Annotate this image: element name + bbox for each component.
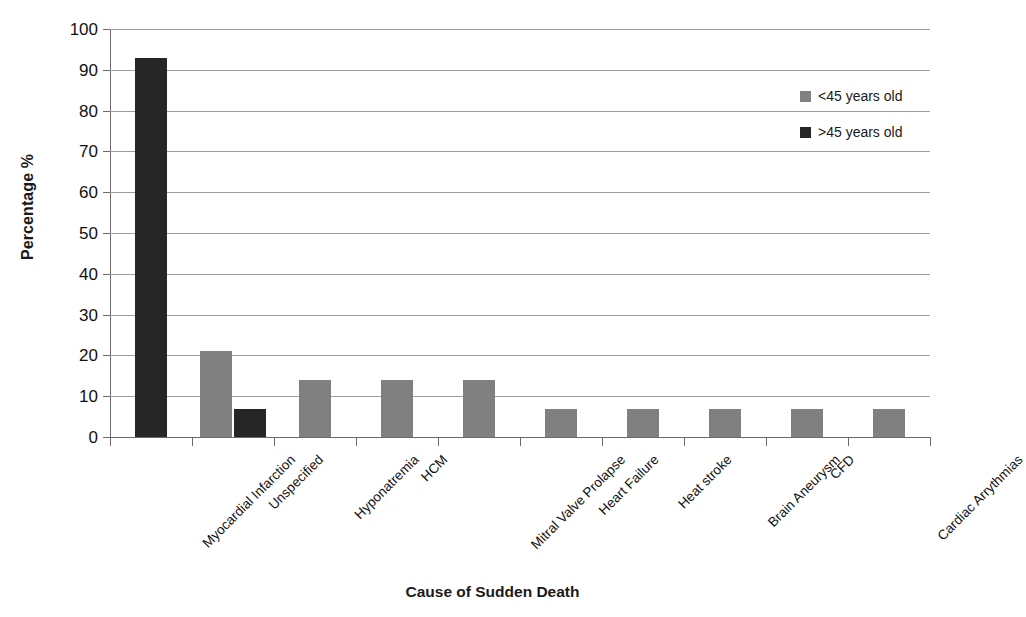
y-tick-label-40: 40 [28,265,98,282]
gridline-50 [110,233,930,234]
bar [709,409,741,437]
gridline-30 [110,315,930,316]
legend-swatch-icon [800,127,811,138]
x-axis-label: Cardiac Arrythmias [934,452,1025,543]
gridline-70 [110,151,930,152]
bar [381,380,413,437]
gridline-90 [110,70,930,71]
gridline-100 [110,29,930,30]
x-tick-mark-1 [192,437,193,446]
bar [234,409,266,437]
y-tick-label-0: 0 [28,429,98,446]
y-tick-label-80: 80 [28,102,98,119]
x-tick-mark-2 [274,437,275,446]
y-tick-label-60: 60 [28,184,98,201]
x-tick-mark-7 [684,437,685,446]
bar [791,409,823,437]
legend-item-label: <45 years old [818,88,902,104]
x-tick-mark-6 [602,437,603,446]
x-tick-mark-9 [848,437,849,446]
x-axis-label: Heat stroke [675,452,734,511]
chart-legend: <45 years old>45 years old [800,78,960,150]
gridline-60 [110,192,930,193]
y-tick-label-10: 10 [28,388,98,405]
gridline-10 [110,396,930,397]
bar [873,409,905,437]
legend-item-label: >45 years old [818,124,902,140]
y-tick-label-100: 100 [28,21,98,38]
legend-item[interactable]: >45 years old [800,114,960,150]
bar [299,380,331,437]
y-tick-label-70: 70 [28,143,98,160]
x-tick-mark-0 [110,437,111,446]
y-tick-label-30: 30 [28,306,98,323]
legend-swatch-icon [800,91,811,102]
bar [545,409,577,437]
legend-item[interactable]: <45 years old [800,78,960,114]
y-tick-label-50: 50 [28,225,98,242]
gridline-40 [110,274,930,275]
bar [627,409,659,437]
x-tick-mark-5 [520,437,521,446]
bar [135,58,167,437]
x-tick-mark-3 [356,437,357,446]
x-tick-mark-4 [438,437,439,446]
x-axis-title: Cause of Sudden Death [0,583,985,601]
x-axis-label: Hyponatremia [352,452,422,522]
x-axis-label: HCM [418,452,450,484]
bar [463,380,495,437]
gridline-20 [110,355,930,356]
bar [200,351,232,437]
y-tick-label-20: 20 [28,347,98,364]
x-tick-mark-8 [766,437,767,446]
x-tick-mark-10 [930,437,931,446]
y-tick-label-90: 90 [28,61,98,78]
x-axis-label: Brain Aneurysm [765,452,843,530]
